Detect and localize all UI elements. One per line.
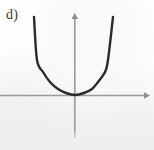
parabola-figure: d) — [0, 0, 154, 150]
x-axis-arrowhead — [144, 92, 150, 99]
y-axis-arrowhead — [72, 13, 79, 19]
y-axis — [72, 13, 79, 138]
plot-canvas — [0, 0, 154, 150]
parabola-curve — [34, 17, 113, 95]
figure-label: d) — [6, 8, 18, 22]
parabola-stroke — [34, 17, 113, 95]
